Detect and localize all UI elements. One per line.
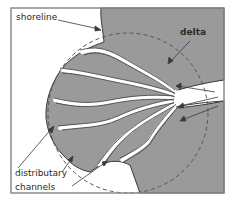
channels-label-line1: distributary bbox=[15, 169, 67, 178]
river-delta-diagram: shoreline delta distributary channels bbox=[0, 0, 247, 208]
channels-label-line2: channels bbox=[15, 183, 55, 192]
delta-label: delta bbox=[180, 28, 206, 37]
shoreline-label: shoreline bbox=[16, 13, 57, 22]
